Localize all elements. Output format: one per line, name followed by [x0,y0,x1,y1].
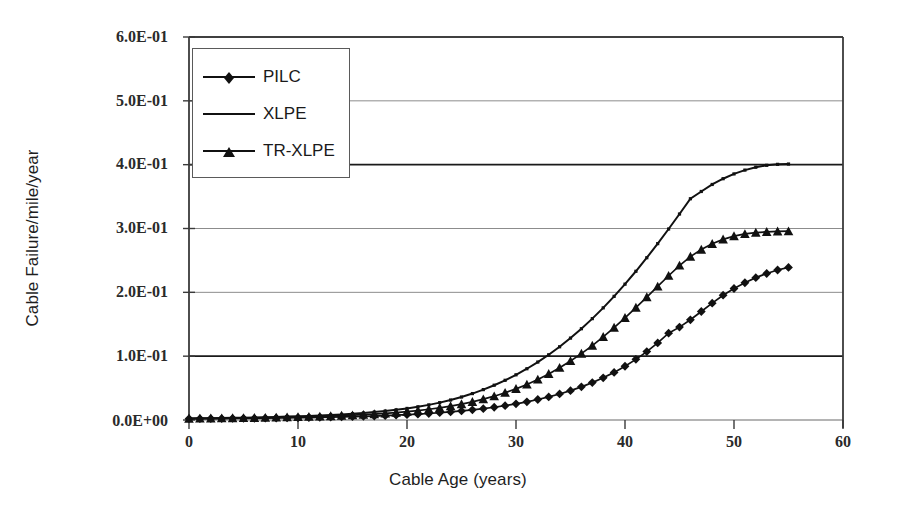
legend-item-tr-xlpe[interactable]: TR-XLPE [193,136,349,166]
line-marker-icon [203,103,255,125]
legend-label: TR-XLPE [263,141,335,161]
legend-label: PILC [263,67,301,87]
legend: PILC XLPE TR-XLPE [192,48,350,178]
legend-item-xlpe[interactable]: XLPE [193,99,349,129]
legend-label: XLPE [263,104,306,124]
chart-figure: Cable Failure/mile/year Cable Age (years… [0,0,898,525]
series-tr-xlpe [184,226,793,422]
series-xlpe [187,162,790,420]
legend-item-pilc[interactable]: PILC [193,62,349,92]
series-pilc [185,263,793,423]
diamond-marker-icon [203,66,255,88]
plot-area [0,0,898,525]
triangle-marker-icon [203,140,255,162]
